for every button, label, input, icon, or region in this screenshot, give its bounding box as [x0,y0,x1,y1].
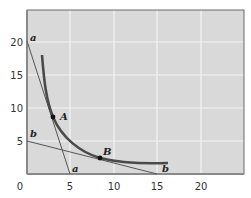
y-tick-20: 20 [10,37,23,48]
point-b-marker [98,156,103,161]
label-a-bottom: a [72,163,78,174]
x-tick-15: 15 [151,181,164,192]
y-tick-10: 10 [10,103,23,114]
label-point-a: A [59,111,68,122]
x-tick-10: 10 [108,181,121,192]
x-tick-20: 20 [195,181,208,192]
chart: a a b b A B 0 5 10 15 20 5 10 15 20 [0,0,251,198]
label-b-left: b [30,128,37,139]
label-point-b: B [102,146,111,157]
label-b-right: b [162,163,169,174]
y-tick-15: 15 [10,70,23,81]
x-tick-5: 5 [67,181,73,192]
point-a-marker [51,115,56,120]
label-a-top: a [30,32,36,43]
x-tick-0: 0 [17,181,23,192]
y-tick-5: 5 [17,136,23,147]
